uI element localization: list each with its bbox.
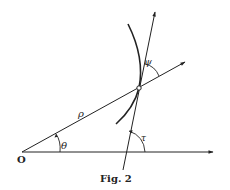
polar-tangent-diagram: O ρ θ ψ τ Fig. 2 (0, 0, 230, 190)
psi-label: ψ (144, 56, 152, 67)
rho-label: ρ (77, 108, 84, 119)
theta-label: θ (61, 140, 67, 151)
radius-vector (22, 62, 185, 152)
curve (116, 24, 141, 124)
origin-label: O (17, 154, 26, 165)
figure-caption: Fig. 2 (100, 173, 132, 184)
point-p (137, 86, 141, 90)
tau-label: τ (141, 133, 147, 143)
